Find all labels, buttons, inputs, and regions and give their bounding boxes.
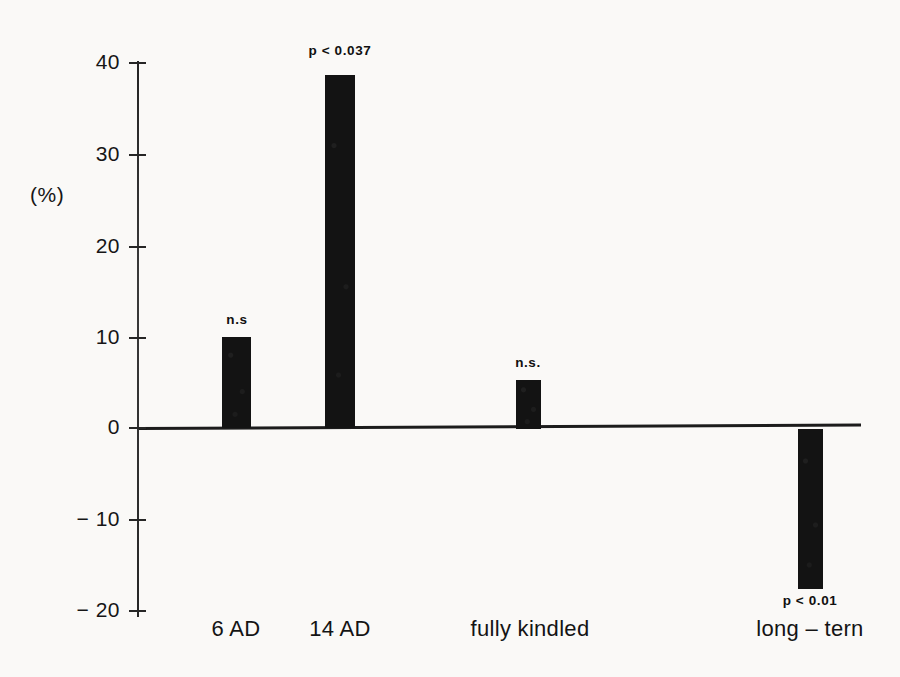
category-label-14-ad: 14 AD <box>285 616 395 642</box>
y-tick-0 <box>129 427 146 429</box>
y-tick-label-minus-10: − 10 <box>77 507 120 531</box>
y-tick-m20 <box>129 610 146 612</box>
y-tick-label-minus-20: − 20 <box>77 598 120 622</box>
category-label-fully-kindled: fully kindled <box>450 616 610 642</box>
bar-6-ad[interactable] <box>222 337 251 428</box>
y-axis-line <box>137 61 139 617</box>
y-tick-40 <box>129 62 146 64</box>
y-tick-m10 <box>129 519 146 521</box>
bar-fully-kindled[interactable] <box>516 380 541 429</box>
y-tick-label-30: 30 <box>96 142 120 166</box>
y-axis-title: (%) <box>30 183 64 207</box>
bar-chart: (%) 40 30 20 10 0 − 10 − 20 n.s p < 0.03… <box>0 0 900 677</box>
y-tick-label-20: 20 <box>96 234 120 258</box>
bar-annotation-14-ad: p < 0.037 <box>280 43 400 58</box>
category-label-6-ad: 6 AD <box>186 616 286 642</box>
category-label-long-tern: long – tern <box>730 616 890 642</box>
y-tick-label-0: 0 <box>108 415 120 439</box>
bar-annotation-long-tern: p < 0.01 <box>760 593 860 608</box>
y-tick-30 <box>129 154 146 156</box>
y-tick-label-40: 40 <box>96 50 120 74</box>
y-tick-20 <box>129 246 146 248</box>
bar-long-tern[interactable] <box>798 429 823 589</box>
y-tick-10 <box>129 337 146 339</box>
bar-annotation-6-ad: n.s <box>197 312 277 327</box>
y-tick-label-10: 10 <box>96 325 120 349</box>
bar-annotation-fully-kindled: n.s. <box>488 355 568 370</box>
bar-14-ad[interactable] <box>325 75 355 428</box>
